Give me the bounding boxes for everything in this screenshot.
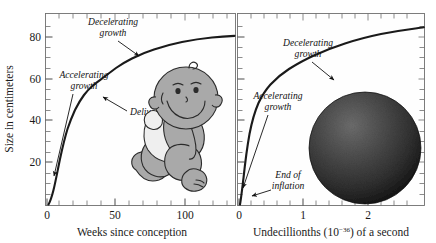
x-axis-title-left: Weeks since conception <box>77 226 187 239</box>
annotation-end-of-inflation-line1: End of <box>274 169 302 180</box>
baby-head <box>154 67 218 129</box>
x-axis-title-right: Undecillionths (10−36) of a second <box>253 226 409 239</box>
dual-growth-chart: Decelerating growth Accelerating growth … <box>0 0 436 243</box>
x-axis-title-right-pre: Undecillionths (10 <box>253 226 339 239</box>
annotation-decelerating-right-line2: growth <box>295 48 322 59</box>
x-tick-label-1-right: 1 <box>300 209 306 221</box>
annotation-accelerating-line1: Accelerating <box>58 69 108 80</box>
annotation-decelerating-right-line1: Decelerating <box>282 37 333 48</box>
figure-container: Decelerating growth Accelerating growth … <box>0 0 436 243</box>
annotation-accelerating-right-line2: growth <box>265 101 292 112</box>
x-tick-label-2-right: 2 <box>365 209 371 221</box>
baby-eye-right <box>193 87 198 93</box>
y-tick-label-20: 20 <box>30 156 42 168</box>
y-tick-label-60: 60 <box>30 73 42 85</box>
x-tick-label-100-left: 100 <box>176 209 194 221</box>
x-tick-label-50-left: 50 <box>109 209 121 221</box>
baby-eye-left <box>175 88 180 94</box>
panel-baby-growth: Decelerating growth Accelerating growth … <box>46 14 236 206</box>
annotation-accelerating-right-line1: Accelerating <box>252 90 302 101</box>
panel-cosmic-inflation: Decelerating growth Accelerating growth … <box>238 14 425 206</box>
x-axis-title-right-post: ) of a second <box>350 226 409 239</box>
x-tick-label-0-left: 0 <box>44 209 50 221</box>
x-axis-title-right-exponent: −36 <box>339 226 350 234</box>
y-tick-label-80: 80 <box>30 31 42 43</box>
y-tick-label-40: 40 <box>30 114 42 126</box>
universe-sphere <box>309 92 421 204</box>
annotation-decelerating-line2: growth <box>100 27 127 38</box>
annotation-end-of-inflation-line2: inflation <box>272 180 305 191</box>
annotation-decelerating-line1: Decelerating <box>87 16 138 27</box>
annotation-accelerating-line2: growth <box>71 80 98 91</box>
x-tick-label-0-right: 0 <box>236 209 242 221</box>
y-axis-title-left: Size in centimeters <box>3 65 15 153</box>
universe-sphere-illustration <box>309 92 421 204</box>
